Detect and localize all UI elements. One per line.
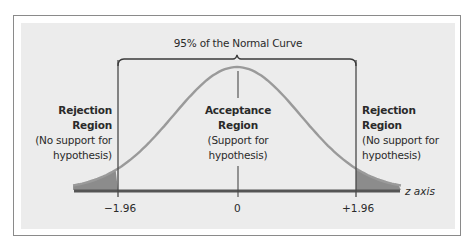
confidence-brace	[118, 55, 356, 66]
center-region-heading-1: Acceptance	[178, 103, 298, 118]
right-region-heading-2: Region	[362, 118, 439, 133]
brace-title: 95% of the Normal Curve	[150, 37, 326, 49]
left-rejection-label: Rejection Region (No support for hypothe…	[35, 103, 112, 163]
center-region-note-1: (Support for	[178, 133, 298, 148]
left-region-heading-1: Rejection	[35, 103, 112, 118]
left-region-heading-2: Region	[35, 118, 112, 133]
tick-label-zero: 0	[234, 202, 241, 214]
right-rejection-label: Rejection Region (No support for hypothe…	[362, 103, 439, 163]
center-region-heading-2: Region	[178, 118, 298, 133]
z-axis-label: z axis	[405, 185, 435, 197]
tick-label-negative: −1.96	[104, 202, 136, 214]
acceptance-label: Acceptance Region (Support for hypothesi…	[178, 103, 298, 163]
right-region-note-2: hypothesis)	[362, 148, 439, 163]
center-region-note-2: hypothesis)	[178, 148, 298, 163]
right-region-heading-1: Rejection	[362, 103, 439, 118]
tick-label-positive: +1.96	[342, 202, 374, 214]
left-region-note-1: (No support for	[35, 133, 112, 148]
right-region-note-1: (No support for	[362, 133, 439, 148]
left-region-note-2: hypothesis)	[35, 148, 112, 163]
